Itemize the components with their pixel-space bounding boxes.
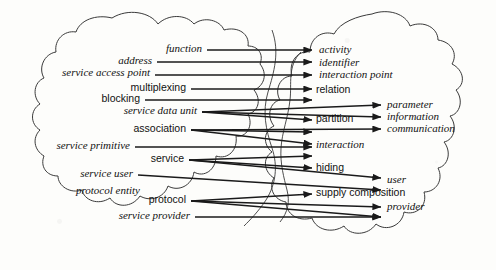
edge-protocol-to-supply-composition [191, 194, 312, 201]
target-label-provider: provider [387, 201, 424, 212]
diagram-canvas: functionaddressservice access pointmulti… [0, 0, 496, 270]
edge-service-to-user-a [189, 160, 381, 178]
target-label-relation: relation [316, 84, 350, 95]
target-label-interaction: interaction [316, 139, 364, 150]
source-label-blocking: blocking [101, 93, 140, 104]
source-label-protocol: protocol [149, 194, 186, 205]
target-label-activity: activity [319, 44, 351, 55]
target-label-identifier: identifier [319, 57, 359, 68]
target-label-parameter: parameter [387, 99, 433, 110]
target-label-supply-composition: supply composition [316, 187, 405, 198]
source-label-protocol-entity: protocol entity [76, 185, 140, 196]
source-label-function: function [166, 43, 202, 54]
edge-service-to-interaction-c [189, 156, 312, 160]
source-label-address: address [118, 55, 152, 66]
target-label-interaction-point: interaction point [319, 69, 393, 80]
target-label-information: information [387, 111, 439, 122]
target-label-hiding: hiding [316, 162, 344, 173]
edge-service-data-unit-to-parameter [202, 105, 381, 112]
source-label-multiplexing: multiplexing [131, 82, 186, 93]
source-label-service: service [151, 153, 184, 164]
target-label-communication: communication [387, 123, 455, 134]
source-label-service-user: service user [80, 168, 133, 179]
source-label-service-primitive: service primitive [56, 140, 130, 151]
target-label-partition: partition [316, 113, 353, 124]
source-label-service-provider: service provider [119, 210, 190, 221]
source-label-service-data-unit: service data unit [124, 105, 197, 116]
target-label-user: user [387, 174, 406, 185]
source-label-association: association [133, 123, 186, 134]
source-label-service-access-point: service access point [62, 67, 150, 78]
inner-curve-a [280, 52, 301, 222]
diagram-svg [0, 0, 496, 270]
